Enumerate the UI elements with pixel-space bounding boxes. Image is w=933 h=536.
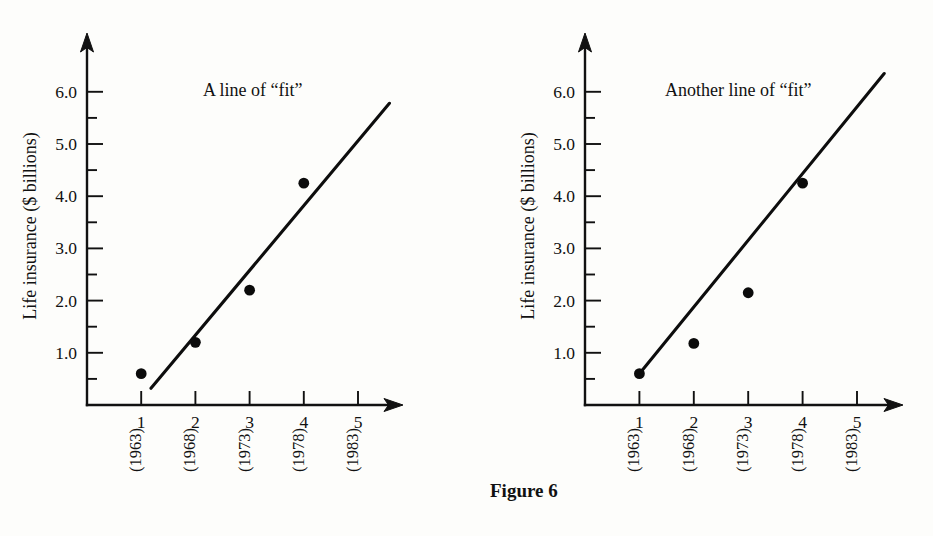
right-y-tick-label: 1.0 xyxy=(553,343,575,363)
left-y-axis-title: Life insurance ($ billions) xyxy=(20,132,41,319)
left-fit-line xyxy=(151,103,389,388)
left-x-year-label: (1983) xyxy=(343,428,362,472)
left-y-tick-label: 5.0 xyxy=(55,134,77,154)
right-x-year-label: (1973) xyxy=(733,428,752,472)
right-x-year-label: (1963) xyxy=(624,428,643,472)
left-x-ticks xyxy=(141,391,358,405)
figure-caption: Figure 6 xyxy=(490,480,558,501)
chart-left: 1.02.03.04.05.06.0 12345 (1963)(1968)(19… xyxy=(20,33,403,472)
left-x-year-label: (1973) xyxy=(235,428,254,472)
left-y-ticks xyxy=(87,92,103,379)
data-point xyxy=(688,338,699,349)
right-fit-annotation: Another line of “fit” xyxy=(665,80,811,100)
data-point xyxy=(190,337,201,348)
right-y-ticks xyxy=(585,92,601,379)
right-y-tick-labels: 1.02.03.04.05.06.0 xyxy=(553,82,575,363)
left-y-tick-label: 3.0 xyxy=(55,238,77,258)
data-point xyxy=(743,287,754,298)
data-point xyxy=(634,368,645,379)
chart-right: 1.02.03.04.05.06.0 12345 (1963)(1968)(19… xyxy=(518,33,903,472)
left-x-year-labels: (1963)(1968)(1973)(1978)(1983) xyxy=(126,428,362,472)
left-y-tick-label: 2.0 xyxy=(55,291,77,311)
data-point xyxy=(797,178,808,189)
right-y-tick-label: 3.0 xyxy=(553,238,575,258)
right-y-tick-label: 6.0 xyxy=(553,82,575,102)
right-x-year-label: (1968) xyxy=(679,428,698,472)
left-y-tick-label: 4.0 xyxy=(55,186,77,206)
left-x-year-label: (1978) xyxy=(289,428,308,472)
right-y-axis-title: Life insurance ($ billions) xyxy=(518,132,539,319)
right-y-tick-label: 4.0 xyxy=(553,186,575,206)
left-y-tick-label: 6.0 xyxy=(55,82,77,102)
left-data-points xyxy=(136,178,309,379)
right-x-year-labels: (1963)(1968)(1973)(1978)(1983) xyxy=(624,428,861,472)
right-y-tick-label: 5.0 xyxy=(553,134,575,154)
right-fit-line xyxy=(639,74,884,374)
right-x-year-label: (1983) xyxy=(842,428,861,472)
left-fit-annotation: A line of “fit” xyxy=(203,80,302,100)
right-x-ticks xyxy=(639,391,857,405)
right-x-year-label: (1978) xyxy=(788,428,807,472)
data-point xyxy=(244,285,255,296)
right-y-tick-label: 2.0 xyxy=(553,291,575,311)
data-point xyxy=(298,178,309,189)
left-x-year-label: (1963) xyxy=(126,428,145,472)
figure-container: 1.02.03.04.05.06.0 12345 (1963)(1968)(19… xyxy=(0,0,933,536)
left-y-tick-labels: 1.02.03.04.05.06.0 xyxy=(55,82,77,363)
left-y-tick-label: 1.0 xyxy=(55,343,77,363)
figure-svg: 1.02.03.04.05.06.0 12345 (1963)(1968)(19… xyxy=(0,0,933,536)
data-point xyxy=(136,368,147,379)
left-x-year-label: (1968) xyxy=(180,428,199,472)
